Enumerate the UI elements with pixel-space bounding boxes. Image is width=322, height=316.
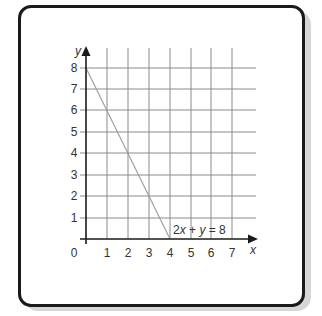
chart: 1 2 3 4 5 6 7 8 0 1 2 3 4 5 6 7 y x 2x +…: [0, 0, 322, 316]
y-axis-arrow-icon: [82, 46, 91, 56]
svg-text:2: 2: [125, 246, 132, 260]
y-axis-label: y: [74, 44, 82, 58]
equation-annotation: 2x + y = 8: [173, 223, 226, 237]
y-tick-labels: 1 2 3 4 5 6 7 8: [71, 61, 78, 225]
svg-text:7: 7: [71, 82, 78, 96]
svg-text:6: 6: [208, 246, 215, 260]
origin-label: 0: [71, 246, 78, 260]
svg-text:2: 2: [71, 189, 78, 203]
svg-text:7: 7: [229, 246, 236, 260]
svg-text:5: 5: [188, 246, 195, 260]
svg-text:1: 1: [71, 211, 78, 225]
x-tick-labels: 0 1 2 3 4 5 6 7: [71, 246, 236, 260]
x-axis-label: x: [249, 243, 257, 257]
svg-text:3: 3: [71, 168, 78, 182]
grid: [80, 48, 256, 239]
svg-text:8: 8: [71, 61, 78, 75]
svg-text:5: 5: [71, 125, 78, 139]
svg-text:6: 6: [71, 103, 78, 117]
svg-text:4: 4: [71, 146, 78, 160]
svg-text:1: 1: [104, 246, 111, 260]
svg-text:4: 4: [167, 246, 174, 260]
svg-text:3: 3: [146, 246, 153, 260]
